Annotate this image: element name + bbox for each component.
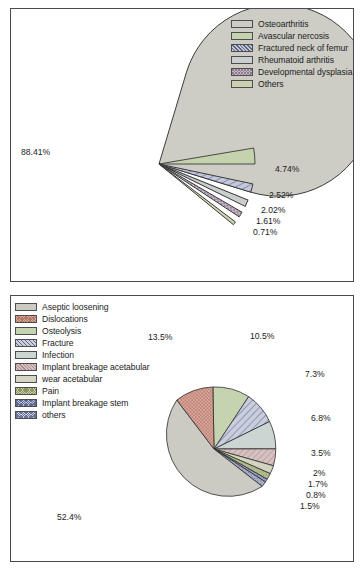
value-label-dislocations: 13.5% [148,332,172,342]
legend-swatch-fracture [15,339,37,347]
legend-item-implant-breakage-acetabular[interactable]: Implant breakage acetabular [15,361,150,372]
legend-label-fracture: Fracture [42,338,74,348]
legend-swatch-implant-breakage-stem [15,399,37,407]
value-label-infection: 6.8% [311,413,331,423]
legend-swatch-dislocations [15,315,37,323]
legend-item-others-revision[interactable]: others [15,409,150,420]
legend-label-aseptic-loosening: Aseptic loosening [42,302,109,312]
legend-label-osteoarthritis: Osteoarthritis [258,19,308,29]
legend-label-osteolysis: Osteolysis [42,326,81,336]
legend-swatch-avascular-nercosis [231,32,253,40]
legend-item-dislocations[interactable]: Dislocations [15,313,150,324]
legend-swatch-osteolysis [15,327,37,335]
legend-label-rheumatoid-arthritis: Rheumatoid arthritis [258,55,334,65]
pie-chart-revision-indication: Aseptic loosening Dislocations Osteolysi… [11,296,353,561]
legend-item-aseptic-loosening[interactable]: Aseptic loosening [15,301,150,312]
value-label-rheumatoid-arthritis: 2.02% [261,205,285,215]
legend-label-pain: Pain [42,386,59,396]
legend-item-osteolysis[interactable]: Osteolysis [15,325,150,336]
legend-swatch-infection [15,351,37,359]
legend-swatch-implant-breakage-acetabular [15,363,37,371]
value-label-osteolysis: 10.5% [250,331,274,341]
legend-swatch-fractured-neck-of-femur [231,44,253,52]
value-label-avascular-nercosis: 4.74% [275,164,299,174]
legend-label-infection: Infection [42,350,74,360]
legend-item-fracture[interactable]: Fracture [15,337,150,348]
legend-label-others: Others [258,79,284,89]
legend-swatch-others-revision [15,411,37,419]
value-label-others: 0.71% [253,227,277,237]
legend-item-osteoarthritis[interactable]: Osteoarthritis [231,18,352,29]
legend-revision-indication: Aseptic loosening Dislocations Osteolysi… [15,301,150,421]
value-label-aseptic-loosening: 52.4% [57,512,81,522]
legend-item-others[interactable]: Others [231,78,352,89]
legend-swatch-osteoarthritis [231,20,253,28]
value-label-fracture: 7.3% [305,369,325,379]
legend-label-wear-acetabular: wear acetabular [42,374,102,384]
legend-item-avascular-nercosis[interactable]: Avascular nercosis [231,30,352,41]
legend-swatch-rheumatoid-arthritis [231,56,253,64]
value-label-pain: 1.7% [308,479,328,489]
legend-label-implant-breakage-acetabular: Implant breakage acetabular [42,362,150,372]
value-label-fractured-neck-of-femur: 2.52% [269,190,293,200]
legend-item-fractured-neck-of-femur[interactable]: Fractured neck of femur [231,42,352,53]
legend-item-wear-acetabular[interactable]: wear acetabular [15,373,150,384]
legend-item-rheumatoid-arthritis[interactable]: Rheumatoid arthritis [231,54,352,65]
pie-chart-primary-diagnosis: Osteoarthritis Avascular nercosis Fractu… [11,9,353,281]
value-label-implant-breakage-stem: 0.8% [306,490,326,500]
legend-label-developmental-dysplasia: Developmental dysplasia [258,67,352,77]
legend-label-dislocations: Dislocations [42,314,88,324]
legend-swatch-others [231,80,253,88]
legend-item-developmental-dysplasia[interactable]: Developmental dysplasia [231,66,352,77]
figure-panel-primary-diagnosis: Osteoarthritis Avascular nercosis Fractu… [10,8,354,282]
legend-swatch-aseptic-loosening [15,303,37,311]
legend-primary-diagnosis: Osteoarthritis Avascular nercosis Fractu… [231,18,352,90]
legend-label-fractured-neck-of-femur: Fractured neck of femur [258,43,348,53]
value-label-developmental-dysplasia: 1.61% [256,216,280,226]
value-label-wear-acetabular: 2% [313,468,325,478]
figure-panel-revision-indication: Aseptic loosening Dislocations Osteolysi… [10,295,354,562]
legend-swatch-pain [15,387,37,395]
legend-label-others-revision: others [42,410,66,420]
value-label-others-revision: 1.5% [300,501,320,511]
legend-item-pain[interactable]: Pain [15,385,150,396]
legend-item-implant-breakage-stem[interactable]: Implant breakage stem [15,397,150,408]
legend-item-infection[interactable]: Infection [15,349,150,360]
legend-label-avascular-nercosis: Avascular nercosis [258,31,329,41]
legend-swatch-developmental-dysplasia [231,68,253,76]
value-label-implant-breakage-acetabular: 3.5% [311,448,331,458]
value-label-osteoarthritis: 88.41% [21,147,50,157]
legend-swatch-wear-acetabular [15,375,37,383]
legend-label-implant-breakage-stem: Implant breakage stem [42,398,128,408]
pie-slices-revision [166,386,277,498]
